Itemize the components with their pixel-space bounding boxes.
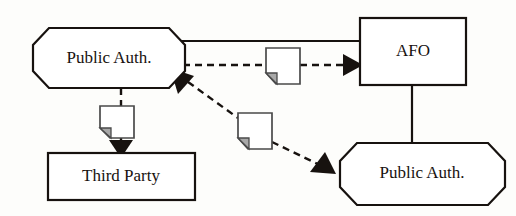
node-public-auth-top[interactable]: Public Auth. <box>33 28 185 88</box>
node-label-public-auth-bottom: Public Auth. <box>379 163 464 182</box>
document-icon-fold <box>266 73 277 84</box>
arrowhead-to-public-auth-bottom <box>310 152 336 174</box>
diagram-svg: Public Auth. AFO Third Party Public Auth… <box>0 0 516 216</box>
node-label-afo: AFO <box>396 41 430 60</box>
edge-line-upper <box>188 82 238 118</box>
edge-line-lower <box>272 142 322 166</box>
document-icon <box>266 48 300 84</box>
node-label-public-auth-top: Public Auth. <box>66 48 151 67</box>
document-icon-fold <box>238 138 249 149</box>
document-icon-fold <box>100 128 111 138</box>
node-afo[interactable]: AFO <box>360 18 466 85</box>
node-third-party[interactable]: Third Party <box>48 153 195 200</box>
diagram-canvas: Public Auth. AFO Third Party Public Auth… <box>0 0 516 216</box>
node-label-third-party: Third Party <box>82 166 160 185</box>
document-icon <box>100 106 134 138</box>
node-public-auth-bottom[interactable]: Public Auth. <box>340 143 505 205</box>
document-icon <box>238 113 272 149</box>
